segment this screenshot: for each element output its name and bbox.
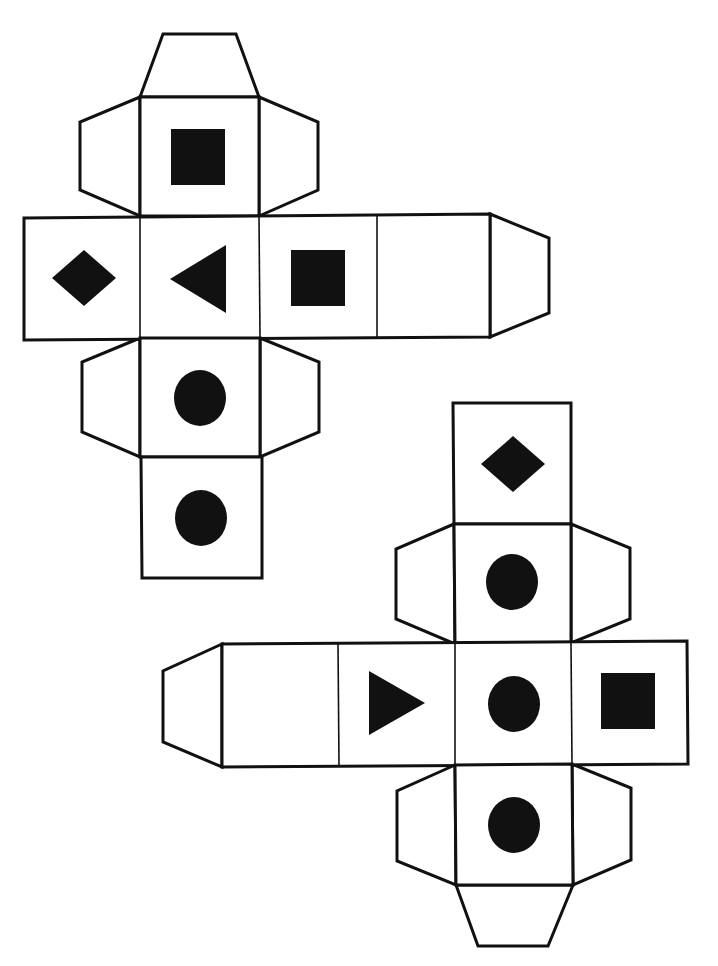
fold-line [571, 643, 572, 764]
tab-lower-right [572, 764, 631, 885]
tab-lower-right [260, 338, 319, 457]
tab-left-end [163, 644, 222, 767]
circle-symbol [174, 370, 226, 426]
fold-line [259, 216, 260, 338]
square-symbol [291, 250, 345, 306]
tab-upper-right [571, 524, 630, 643]
tab-top-left [80, 97, 140, 216]
square-symbol [601, 673, 655, 729]
tab-top-right [259, 97, 318, 216]
tab-right-end [490, 214, 549, 337]
circle-symbol [175, 490, 227, 546]
square-symbol [171, 129, 225, 185]
tab-top [140, 34, 259, 97]
tab-upper-left [396, 524, 455, 644]
tab-bottom [456, 885, 573, 946]
circle-symbol [486, 554, 538, 610]
tab-lower-left [397, 765, 456, 885]
fold-line [338, 643, 339, 766]
circle-symbol [488, 797, 540, 853]
tab-lower-left [82, 338, 140, 457]
cube-nets-diagram [0, 0, 718, 966]
circle-symbol [488, 676, 540, 732]
